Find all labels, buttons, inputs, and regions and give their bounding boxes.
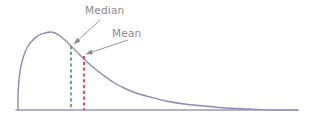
mean-label: Mean xyxy=(112,27,141,39)
mean-arrow xyxy=(86,40,128,54)
mean-arrow-shaft xyxy=(86,40,128,54)
median-label: Median xyxy=(85,4,124,16)
median-arrow xyxy=(74,20,100,44)
chart-canvas xyxy=(0,0,320,124)
skewed-distribution-chart: Median Mean xyxy=(0,0,320,124)
mean-arrow-head xyxy=(86,49,93,54)
distribution-curve xyxy=(18,32,298,110)
